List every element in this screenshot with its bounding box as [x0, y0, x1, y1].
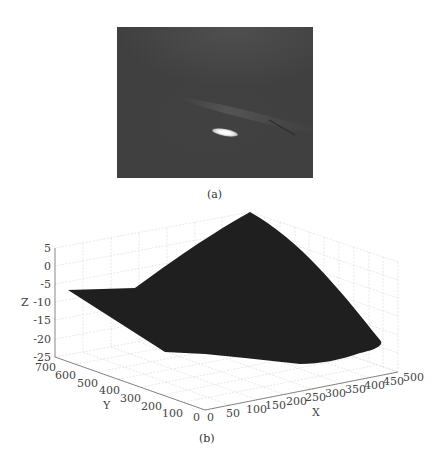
svg-text:-5: -5: [40, 278, 51, 291]
svg-text:50: 50: [226, 407, 240, 420]
z-axis-label: Z: [21, 296, 29, 309]
x-axis-label: X: [312, 406, 320, 419]
svg-text:-15: -15: [33, 314, 51, 327]
svg-text:0: 0: [44, 260, 51, 273]
svg-text:400: 400: [364, 379, 385, 392]
svg-text:700: 700: [35, 361, 56, 374]
svg-text:-20: -20: [33, 333, 51, 346]
svg-text:200: 200: [141, 400, 162, 413]
svg-text:450: 450: [383, 375, 404, 388]
svg-text:0: 0: [193, 411, 200, 424]
svg-text:300: 300: [325, 387, 346, 400]
svg-text:0: 0: [207, 411, 214, 424]
surface: [68, 212, 381, 364]
svg-text:5: 5: [44, 242, 51, 255]
svg-text:150: 150: [265, 399, 286, 412]
figure-b-3d-plot: 5 0 -5 -10 -15 -20 -25 Z 700 600 500 400…: [0, 0, 440, 457]
svg-text:300: 300: [120, 392, 141, 405]
svg-text:600: 600: [55, 369, 76, 382]
svg-text:350: 350: [345, 383, 366, 396]
svg-text:100: 100: [162, 407, 183, 420]
caption-b: (b): [199, 432, 215, 445]
svg-text:500: 500: [403, 371, 424, 384]
svg-text:-10: -10: [33, 296, 51, 309]
svg-text:500: 500: [77, 377, 98, 390]
y-axis-label: Y: [102, 399, 111, 412]
svg-text:100: 100: [246, 403, 267, 416]
svg-text:250: 250: [305, 391, 326, 404]
z-ticks: 5 0 -5 -10 -15 -20 -25: [33, 242, 51, 364]
svg-text:200: 200: [286, 395, 307, 408]
svg-text:400: 400: [99, 384, 120, 397]
